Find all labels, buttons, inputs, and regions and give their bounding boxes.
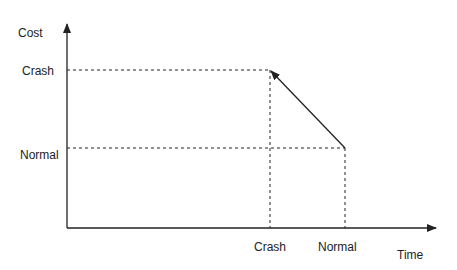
cost-time-diagram <box>0 0 457 270</box>
x-tick-normal: Normal <box>318 240 357 254</box>
y-axis-label: Cost <box>18 26 43 40</box>
y-tick-crash: Crash <box>22 64 54 78</box>
x-axis-label: Time <box>397 248 423 262</box>
x-tick-crash: Crash <box>254 240 286 254</box>
crash-arrow <box>271 71 345 148</box>
y-tick-normal: Normal <box>20 148 59 162</box>
